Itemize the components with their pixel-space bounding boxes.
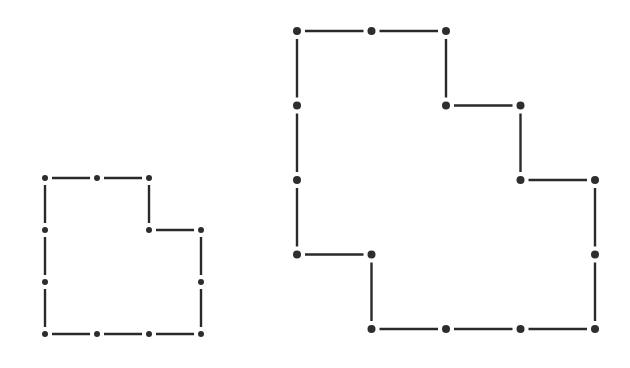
grid-dot bbox=[442, 102, 450, 110]
diagram-canvas bbox=[0, 0, 630, 368]
grid-dot bbox=[146, 175, 152, 181]
grid-dot bbox=[368, 325, 376, 333]
grid-dot bbox=[517, 176, 525, 184]
grid-dot bbox=[591, 176, 599, 184]
grid-dot bbox=[293, 102, 301, 110]
grid-dot bbox=[293, 27, 301, 35]
grid-dot bbox=[591, 325, 599, 333]
grid-dot bbox=[146, 331, 152, 337]
grid-dot bbox=[42, 175, 48, 181]
grid-dot bbox=[293, 176, 301, 184]
grid-dot bbox=[42, 331, 48, 337]
grid-dot bbox=[94, 175, 100, 181]
grid-dot bbox=[591, 251, 599, 259]
grid-dot bbox=[198, 331, 204, 337]
grid-dot bbox=[517, 325, 525, 333]
grid-dot bbox=[94, 331, 100, 337]
grid-dot bbox=[442, 325, 450, 333]
grid-dot bbox=[442, 27, 450, 35]
large-shape bbox=[293, 27, 599, 333]
grid-dot bbox=[368, 27, 376, 35]
grid-dot bbox=[146, 227, 152, 233]
grid-dot bbox=[42, 279, 48, 285]
grid-dot bbox=[293, 251, 301, 259]
grid-dot bbox=[517, 102, 525, 110]
grid-dot bbox=[42, 227, 48, 233]
grid-dot bbox=[198, 227, 204, 233]
grid-dot bbox=[368, 251, 376, 259]
small-shape bbox=[42, 175, 204, 337]
grid-dot bbox=[198, 279, 204, 285]
